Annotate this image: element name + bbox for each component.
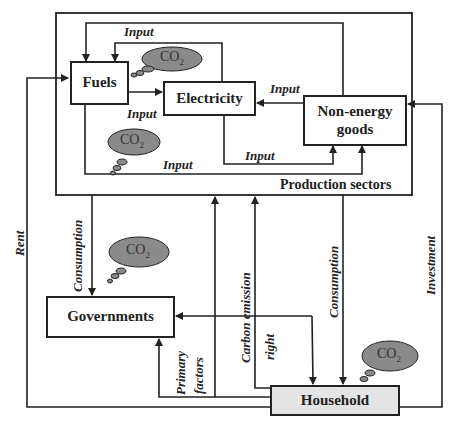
governments-node: Governments <box>46 296 175 338</box>
non-energy-label-line1: Non-energy <box>318 103 393 120</box>
co2-cloud-governments: CO2 <box>126 242 150 260</box>
input-label-fuels-nonenergy: Input <box>163 157 193 173</box>
rent-label: Rent <box>12 231 28 256</box>
electricity-node: Electricity <box>163 81 256 116</box>
input-label-top: Input <box>124 24 154 40</box>
non-energy-label-line2: goods <box>337 121 374 138</box>
production-sectors-label: Production sectors <box>280 177 391 193</box>
investment-label: Investment <box>423 236 439 295</box>
household-node: Household <box>270 385 400 416</box>
input-label-fuels-electricity: Input <box>127 106 157 122</box>
co2-cloud-production: CO2 <box>120 132 144 150</box>
primary-factors-label-line2: factors <box>191 357 207 394</box>
primary-factors-label-line1: Primary <box>173 351 189 395</box>
electricity-label: Electricity <box>176 90 243 107</box>
non-energy-goods-node: Non-energy goods <box>303 95 407 146</box>
governments-label: Governments <box>67 308 154 325</box>
input-label-nonenergy-electricity: Input <box>270 81 300 97</box>
fuels-node: Fuels <box>70 61 129 105</box>
consumption-household-label: Consumption <box>326 246 342 318</box>
input-label-electricity-nonenergy: Input <box>245 148 275 164</box>
consumption-governments-label: Consumption <box>70 220 86 292</box>
co2-cloud-fuels: CO2 <box>160 49 184 67</box>
co2-cloud-household: CO2 <box>377 346 401 364</box>
carbon-emission-label-line1: Carbon emission <box>238 272 254 363</box>
carbon-emission-label-line2: right <box>262 334 278 360</box>
household-label: Household <box>301 392 369 409</box>
fuels-label: Fuels <box>82 74 116 91</box>
